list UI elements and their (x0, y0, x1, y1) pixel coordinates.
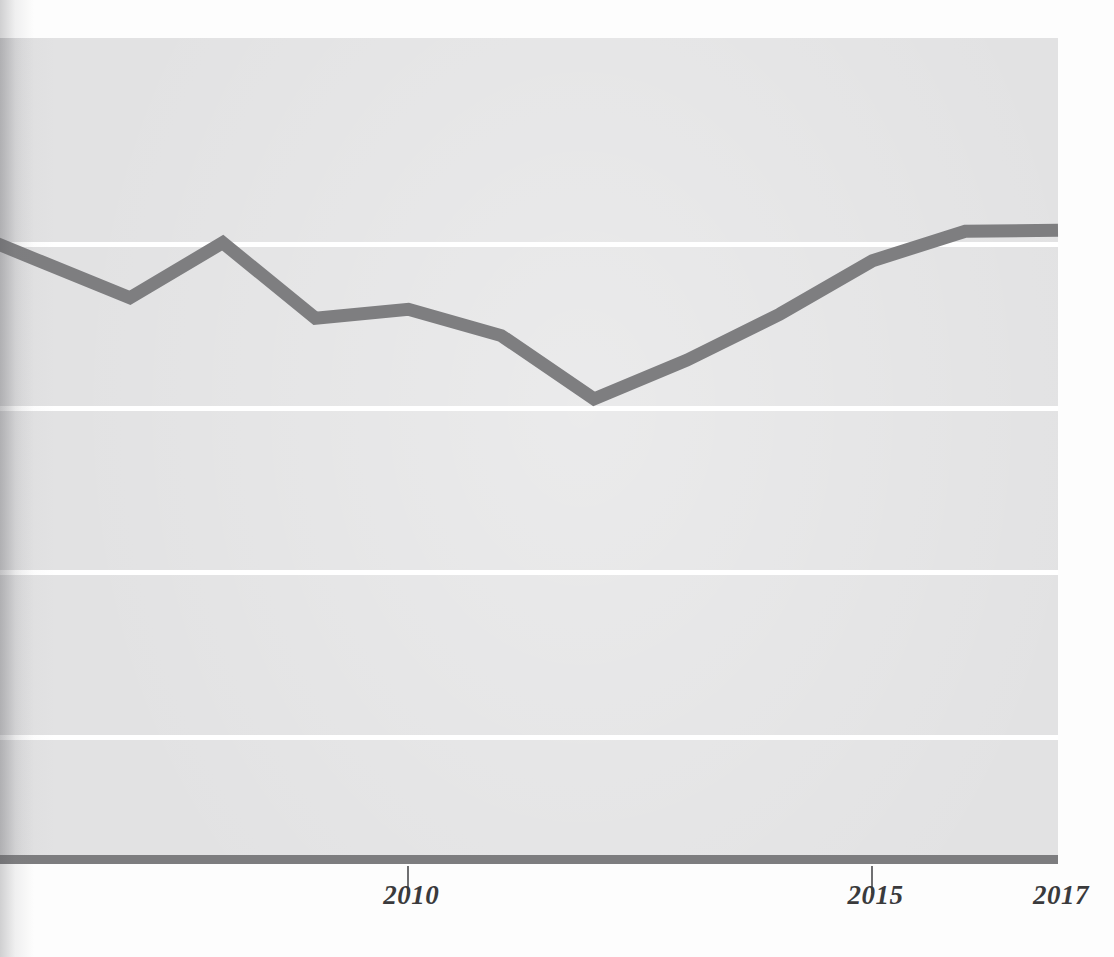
x-tick-label-2010: 2010 (383, 880, 439, 911)
chart-figure: 2010 2015 2017 (0, 0, 1114, 957)
gridline-2 (0, 406, 1058, 411)
x-tick-label-2017: 2017 (1033, 880, 1089, 911)
x-tick-label-2015: 2015 (847, 880, 903, 911)
x-axis-line (0, 855, 1058, 864)
gridline-1 (0, 242, 1058, 247)
gridline-3 (0, 570, 1058, 575)
gridline-4 (0, 735, 1058, 740)
